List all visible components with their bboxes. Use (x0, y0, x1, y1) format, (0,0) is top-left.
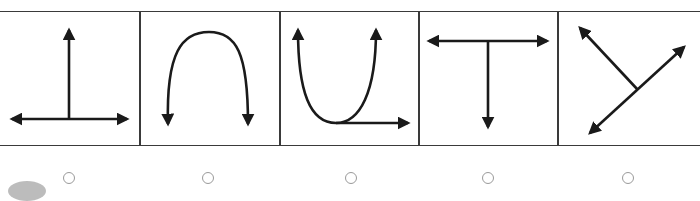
column-divider (279, 11, 281, 145)
column-divider (139, 11, 141, 145)
option-1-radio[interactable] (63, 172, 75, 184)
option-4-radio[interactable] (482, 172, 494, 184)
column-divider (557, 11, 559, 145)
partial-avatar-shape (8, 181, 46, 201)
column-divider (418, 11, 420, 145)
option-3-radio[interactable] (345, 172, 357, 184)
arch-down-arrows-icon (140, 12, 280, 145)
option-1-cell (0, 12, 140, 145)
answer-options-table (0, 11, 700, 146)
y-diagonal-arrows-icon (558, 12, 698, 145)
t-arrows-icon (419, 12, 558, 145)
option-2-radio[interactable] (202, 172, 214, 184)
option-5-cell (558, 12, 698, 145)
u-curve-arrows-icon (280, 12, 419, 145)
option-4-cell (419, 12, 558, 145)
inverted-t-arrows-icon (0, 12, 140, 145)
option-3-cell (280, 12, 419, 145)
option-2-cell (140, 12, 280, 145)
option-5-radio[interactable] (622, 172, 634, 184)
